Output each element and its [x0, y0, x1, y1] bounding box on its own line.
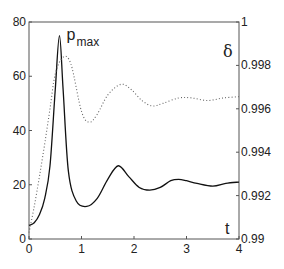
dual-axis-line-chart: 012340204060800.990.9920.9940.9960.9981 …: [0, 0, 284, 269]
pmax-annotation: p: [67, 26, 76, 43]
right-y-tick-label: 0.994: [241, 145, 271, 159]
right-y-tick-label: 0.996: [241, 102, 271, 116]
x-tick-label: 3: [183, 242, 190, 256]
x-tick-label: 0: [26, 242, 33, 256]
left-y-tick-label: 80: [13, 15, 27, 29]
x-tick-label: 2: [131, 242, 138, 256]
left-y-tick-label: 0: [19, 232, 26, 246]
pmax-subscript: max: [77, 35, 100, 49]
x-axis-label-t: t: [225, 220, 230, 237]
left-y-tick-label: 20: [13, 178, 27, 192]
right-y-tick-label: 0.992: [241, 189, 271, 203]
series-lines: [29, 36, 239, 233]
right-y-tick-label: 1: [241, 15, 248, 29]
plot-box: [29, 22, 239, 239]
right-y-tick-label: 0.99: [241, 232, 265, 246]
right-y-tick-label: 0.998: [241, 58, 271, 72]
x-tick-label: 1: [78, 242, 85, 256]
axes-frame: [29, 22, 239, 239]
left-y-tick-label: 60: [13, 69, 27, 83]
delta-series-line: [29, 56, 239, 232]
axis-labels: pmaxδt: [67, 26, 233, 237]
p-series-line: [29, 36, 239, 226]
right-axis-label-delta: δ: [223, 42, 233, 61]
left-y-tick-label: 40: [13, 124, 27, 138]
